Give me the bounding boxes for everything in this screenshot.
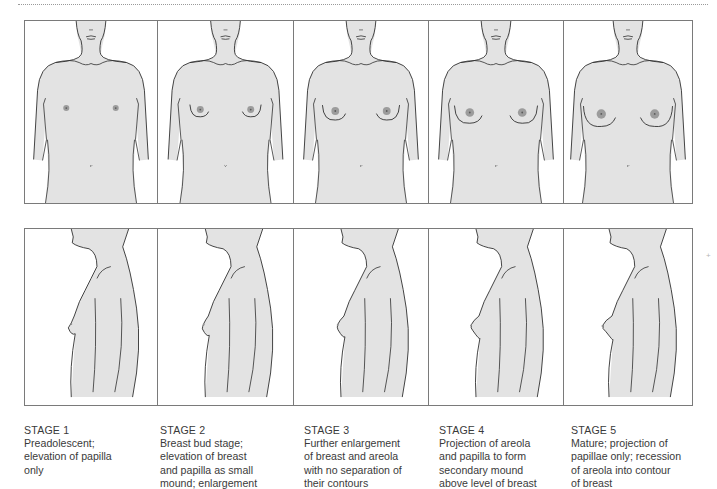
- stage-captions: STAGE 1 Preadolescent; elevation of papi…: [0, 424, 717, 489]
- stage-4-frontal-panel: [429, 21, 564, 203]
- papilla: [337, 324, 339, 326]
- stage-4-frontal-figure: [429, 21, 563, 203]
- left-papilla: [600, 113, 602, 115]
- right-papilla: [386, 110, 388, 112]
- body-silhouette: [571, 21, 686, 203]
- stage-2-lateral-figure: [158, 229, 293, 405]
- stage-2-caption: STAGE 2 Breast bud stage; elevation of b…: [160, 424, 295, 489]
- stage-5-frontal-panel: [564, 21, 692, 203]
- body-silhouette: [34, 21, 149, 203]
- stage-5-frontal-figure: [564, 21, 692, 203]
- stage-2-frontal-panel: [158, 21, 294, 203]
- right-papilla: [250, 109, 252, 111]
- body-silhouette: [168, 21, 283, 203]
- right-papilla: [521, 112, 523, 114]
- stage-4-lateral-figure: [429, 229, 563, 405]
- body-silhouette: [202, 229, 272, 397]
- stage-4-title: STAGE 4: [439, 424, 574, 437]
- stage-3-lateral-panel: [294, 229, 429, 405]
- stage-3-title: STAGE 3: [304, 424, 439, 437]
- papilla: [602, 325, 604, 327]
- stage-5-lateral-panel: [564, 229, 692, 405]
- stage-3-lateral-figure: [294, 229, 428, 405]
- stage-2-frontal-figure: [158, 21, 293, 203]
- body-silhouette: [603, 229, 677, 397]
- lateral-view-row: [24, 228, 693, 406]
- papilla: [203, 323, 205, 325]
- body-silhouette: [304, 21, 419, 203]
- left-papilla: [65, 107, 67, 109]
- stage-2-description: Breast bud stage; elevation of breast an…: [160, 437, 295, 489]
- stage-4-lateral-panel: [429, 229, 564, 405]
- body-silhouette: [337, 229, 408, 397]
- stage-2-title: STAGE 2: [160, 424, 295, 437]
- papilla: [470, 324, 472, 326]
- stage-5-lateral-figure: [564, 229, 692, 405]
- left-papilla: [469, 112, 471, 114]
- stage-5-description: Mature; projection of papillae only; rec…: [571, 437, 706, 489]
- stage-1-title: STAGE 1: [24, 424, 159, 437]
- frontal-view-row: [24, 20, 693, 204]
- right-papilla: [115, 107, 117, 109]
- stage-3-description: Further enlargement of breast and areola…: [304, 437, 439, 489]
- stage-4-description: Projection of areola and papilla to form…: [439, 437, 574, 489]
- left-papilla: [334, 110, 336, 112]
- stage-1-description: Preadolescent; elevation of papilla only: [24, 437, 159, 477]
- stage-2-lateral-panel: [158, 229, 294, 405]
- right-papilla: [654, 113, 656, 115]
- papilla: [70, 323, 72, 325]
- stage-5-title: STAGE 5: [571, 424, 706, 437]
- stage-1-lateral-figure: [25, 229, 157, 405]
- stage-4-caption: STAGE 4 Projection of areola and papilla…: [439, 424, 574, 489]
- stage-1-caption: STAGE 1 Preadolescent; elevation of papi…: [24, 424, 159, 477]
- stage-3-frontal-panel: [294, 21, 429, 203]
- stage-3-caption: STAGE 3 Further enlargement of breast an…: [304, 424, 439, 489]
- body-silhouette: [68, 229, 138, 397]
- stage-3-frontal-figure: [294, 21, 428, 203]
- stage-5-caption: STAGE 5 Mature; projection of papillae o…: [571, 424, 706, 489]
- stage-1-frontal-figure: [25, 21, 157, 203]
- body-silhouette: [439, 21, 554, 203]
- stage-1-frontal-panel: [25, 21, 158, 203]
- top-dotted-rule: [18, 4, 708, 5]
- left-papilla: [199, 109, 201, 111]
- registration-mark: +: [706, 251, 711, 260]
- body-silhouette: [471, 229, 543, 397]
- stage-1-lateral-panel: [25, 229, 158, 405]
